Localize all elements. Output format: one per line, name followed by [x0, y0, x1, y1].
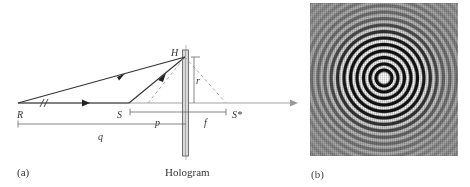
panel-label-a: (a): [17, 166, 30, 179]
interference-ring-pattern: [310, 3, 458, 156]
dashed-ray-left: [148, 57, 185, 103]
dashed-ray-right: [185, 57, 226, 103]
label-H: H: [170, 47, 179, 58]
label-r: r: [196, 75, 200, 86]
moire-texture: [310, 3, 458, 156]
label-S-star: S*: [232, 109, 242, 120]
ray-arrow-icon: [82, 100, 90, 107]
hologram-geometry-diagram: r H R S S* p f q (a) Hologram: [0, 0, 300, 187]
label-f: f: [204, 117, 208, 128]
hologram-label: Hologram: [165, 166, 210, 178]
label-S: S: [117, 109, 122, 120]
label-q: q: [98, 131, 103, 142]
label-p: p: [154, 117, 160, 128]
object-ray-to-H: [129, 57, 185, 103]
label-R: R: [16, 109, 23, 120]
axis-arrowhead-icon: [290, 100, 298, 107]
panel-label-b: (b): [311, 168, 324, 180]
